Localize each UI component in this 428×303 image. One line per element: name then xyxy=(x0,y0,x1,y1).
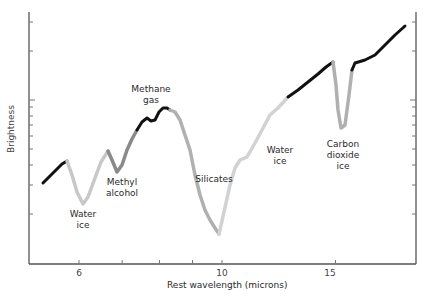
x-tick-label-10: 10 xyxy=(216,268,227,278)
spectrum-segment xyxy=(170,110,219,234)
annotation-line: alcohol xyxy=(103,188,141,199)
annotation-water-ice-1: Water ice xyxy=(68,209,98,231)
spectrum-chart xyxy=(0,0,428,303)
y-axis-title: Brightness xyxy=(6,104,16,154)
annotation-line: dioxide xyxy=(323,150,363,161)
annotation-line: Water xyxy=(68,209,98,220)
spectrum-segment xyxy=(108,130,137,172)
spectrum-segment xyxy=(67,151,108,204)
x-tick-label-15: 15 xyxy=(324,268,335,278)
annotation-line: ice xyxy=(68,220,98,231)
annotation-line: Methane xyxy=(129,84,173,95)
x-tick-label-6: 6 xyxy=(76,268,82,278)
annotation-line: Water xyxy=(263,145,297,156)
annotation-line: Silicates xyxy=(191,174,237,185)
spectrum-segment xyxy=(288,62,333,97)
spectrum-segment xyxy=(352,26,405,70)
annotation-line: gas xyxy=(129,95,173,106)
annotation-line: Carbon xyxy=(323,139,363,150)
spectrum-line xyxy=(43,26,405,234)
annotation-methyl-alcohol: Methyl alcohol xyxy=(103,177,141,199)
annotation-methane-gas: Methane gas xyxy=(129,84,173,106)
annotation-line: ice xyxy=(323,161,363,172)
spectrum-segment xyxy=(43,161,67,183)
y-ticks xyxy=(29,22,416,214)
annotation-line: Methyl xyxy=(103,177,141,188)
annotation-water-ice-2: Water ice xyxy=(263,145,297,167)
annotation-carbon-dioxide-ice: Carbon dioxide ice xyxy=(323,139,363,172)
annotation-line: ice xyxy=(263,156,297,167)
x-axis-title: Rest wavelength (microns) xyxy=(167,280,287,290)
spectrum-segment xyxy=(333,62,352,128)
spectrum-segment xyxy=(137,108,170,130)
annotation-silicates: Silicates xyxy=(191,174,237,185)
